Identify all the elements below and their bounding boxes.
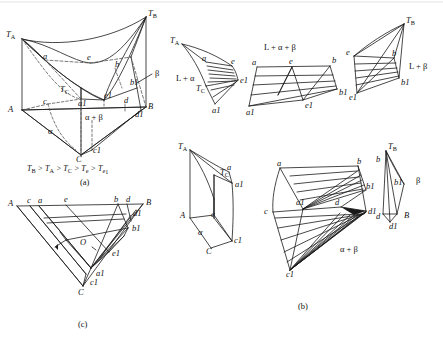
panel-b-solid-alpha-beta [273,166,366,270]
panel-b-label-alpha: α [198,228,202,237]
panel-b-point-a-top: a [202,54,206,63]
panel-c-caption: (c) [78,320,87,329]
panel-b-point-a1-mid: a1 [246,108,255,117]
panel-b-solid-L-alpha-beta [249,66,337,106]
panel-a-point-e: e [87,53,91,62]
panel-b-point-b-mid: b [332,56,336,65]
panel-b-point-c-center: c [264,207,268,216]
panel-b-point-d-center: d [335,198,339,207]
panel-b-point-a1-left: a1 [235,180,244,189]
panel-a-point-c: c [43,97,47,106]
panel-b-point-c1-left: c1 [234,236,242,245]
panel-b-point-e-right: e [346,48,350,57]
panel-b-point-e-top: e [231,57,235,66]
panel-b-point-a1-top: a1 [212,106,221,115]
panel-a-caption: (a) [80,178,89,187]
panel-b-point-a-center: a [277,159,281,168]
panel-b-vertex-TA-top: TA [170,36,179,45]
panel-b-point-b-right2: b [376,155,380,164]
panel-b-vertex-TB-top: TB [406,16,415,25]
panel-a-point-a1: a1 [78,99,87,108]
panel-c-point-d: d [126,195,130,204]
panel-b-corner-C: C [206,247,212,256]
panel-c-point-d1: d1 [133,209,142,218]
panel-b-point-e-mid: e [289,57,293,66]
panel-a-vertex-TB: TB [148,9,157,18]
panel-b-solid-L-beta [354,24,404,93]
panel-b-label-L-alpha: L + α [176,74,194,83]
panel-a-temperature-inequality: TB > TA > TC > Te > Te1 [27,165,108,173]
panel-a-corner-A: A [8,105,13,114]
panel-b-point-e1-mid: e1 [305,101,313,110]
figure-canvas: TA TB TC A B C a b c d e a1 b1 c1 d1 e1 … [0,0,443,339]
panel-b-corner-A: A [180,211,185,220]
panel-b-point-b-center: b [357,157,361,166]
panel-a-corner-C: C [76,155,82,164]
panel-b-point-a1-center: a1 [296,198,305,207]
panel-b-vertex-TB-bottom: TB [388,142,397,151]
panel-c-corner-A: A [8,199,13,208]
panel-b-point-d1-right2: d1 [389,222,398,231]
panel-b-label-L-alpha-beta: L + α + β [264,43,296,52]
panel-a-point-e1: e1 [104,91,112,100]
panel-c-corner-C: C [78,288,84,297]
panel-a-point-d: d [124,96,128,105]
panel-b-corner-B: B [404,211,409,220]
panel-b-point-c-left: c [211,210,215,219]
panel-a-point-a: a [43,52,47,61]
panel-a-point-b: b [115,60,119,69]
panel-b-point-b-right: b [392,49,396,58]
panel-b-label-L-beta: L + β [409,62,427,71]
panel-c-corner-B: B [146,198,151,207]
panel-c-point-a: a [38,196,42,205]
panel-b-point-e1-top: e1 [240,76,248,85]
panel-a-point-c1: c1 [93,146,101,155]
panel-b-point-b1-right2: b1 [394,178,403,187]
panel-b-point-b1-mid: b1 [339,88,348,97]
panel-a-point-b1: b1 [130,78,139,87]
panel-b-point-b1-right: b1 [401,78,410,87]
panel-b-point-c1-center: c1 [286,270,294,279]
panel-a-point-d1: d1 [135,110,144,119]
panel-b-label-beta: β [416,176,420,185]
panel-b-caption: (b) [298,302,308,311]
panel-c-point-c1: c1 [90,278,98,287]
panel-b-vertex-TA-bottom: TA [178,142,187,151]
panel-b-vertex-TC-top: TC [196,84,205,93]
panel-a-vertex-TA: TA [6,30,15,39]
panel-b-point-d-right2: d [376,212,380,221]
panel-b-label-alpha-beta: α + β [340,245,358,254]
panel-a-region-alpha-beta: α + β [85,113,103,122]
panel-a-region-alpha: α [48,127,52,136]
panel-a-vertex-TC: TC [60,85,69,94]
panel-a-corner-B: B [148,102,153,111]
panel-c-point-e1: e1 [112,249,120,258]
panel-b-point-e1-right: e1 [349,93,357,102]
panel-a-region-beta: β [155,69,159,78]
panel-c-point-O: O [80,238,86,247]
panel-c-point-c: c [27,196,31,205]
panel-c-point-b: b [114,195,118,204]
panel-b-point-b1-center: b1 [366,182,375,191]
panel-c-point-e: e [64,195,68,204]
panel-b-point-a-left: a [227,163,231,172]
panel-b-point-a-mid: a [252,58,256,67]
panel-c-point-b1: b1 [132,224,141,233]
